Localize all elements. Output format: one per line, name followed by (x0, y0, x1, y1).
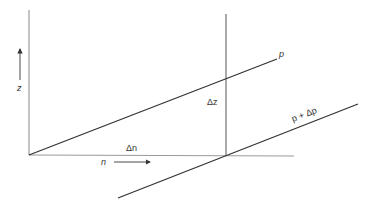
z-axis-label: z (16, 83, 22, 93)
delta-z-label: Δz (207, 97, 218, 107)
pressure-line-p-plus-dp (118, 104, 358, 198)
line-p-label: p (278, 49, 284, 59)
n-axis-line (29, 155, 294, 156)
diagram-canvas: z n Δn Δz p p + Δp (0, 0, 372, 207)
n-axis-label: n (101, 157, 106, 167)
delta-n-label: Δn (126, 143, 137, 153)
pressure-line-p (29, 59, 277, 155)
